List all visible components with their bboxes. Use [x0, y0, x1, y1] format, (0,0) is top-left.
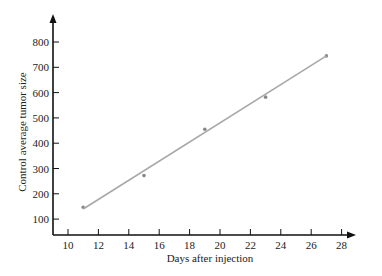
- x-axis-label: Days after injection: [167, 252, 254, 264]
- chart: 1002003004005006007008001012141618202224…: [0, 0, 382, 276]
- y-tick-label: 200: [33, 188, 50, 200]
- x-tick-label: 10: [63, 239, 75, 251]
- x-tick-label: 22: [245, 239, 256, 251]
- y-tick-label: 600: [33, 87, 50, 99]
- x-tick-label: 16: [154, 239, 166, 251]
- series: [81, 54, 328, 209]
- x-tick-label: 12: [93, 239, 104, 251]
- x-tick-label: 20: [215, 239, 227, 251]
- x-tick-label: 18: [184, 239, 196, 251]
- ticks: 1002003004005006007008001012141618202224…: [33, 36, 348, 251]
- data-point: [203, 127, 207, 131]
- fit-line: [83, 56, 326, 209]
- y-axis-arrow-icon: [50, 14, 57, 23]
- data-point: [142, 174, 146, 178]
- x-tick-label: 28: [336, 239, 348, 251]
- x-tick-label: 14: [123, 239, 135, 251]
- y-tick-label: 700: [33, 61, 50, 73]
- y-tick-label: 300: [33, 163, 50, 175]
- y-axis-label: Control average tumor size: [16, 72, 28, 192]
- axes: [50, 14, 357, 239]
- x-axis-arrow-icon: [347, 232, 356, 239]
- y-tick-label: 400: [33, 137, 50, 149]
- x-tick-label: 24: [275, 239, 287, 251]
- x-tick-label: 26: [306, 239, 318, 251]
- y-tick-label: 800: [33, 36, 50, 48]
- y-tick-label: 100: [33, 213, 50, 225]
- y-tick-label: 500: [33, 112, 50, 124]
